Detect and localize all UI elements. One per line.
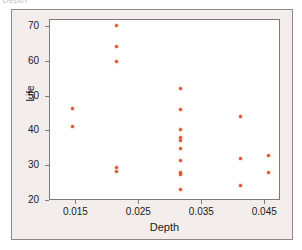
data-point [115, 166, 118, 169]
data-point [179, 139, 182, 142]
data-point [179, 108, 182, 111]
x-tick-label: 0.035 [179, 207, 223, 217]
y-tick-label: 20 [15, 195, 39, 205]
y-tick-label: 30 [15, 160, 39, 170]
x-tick-mark [75, 200, 76, 204]
plot-area [49, 19, 280, 200]
data-point [239, 157, 242, 160]
data-point [71, 107, 74, 110]
y-tick-mark [45, 200, 49, 201]
data-point [239, 115, 242, 118]
x-tick-mark [201, 200, 202, 204]
x-tick-mark [138, 200, 139, 204]
data-point [71, 125, 74, 128]
data-point [179, 188, 182, 191]
data-point [115, 170, 118, 173]
cropped-text-remnant: Depth [2, 0, 27, 4]
data-point [267, 171, 270, 174]
y-tick-label: 50 [15, 91, 39, 101]
y-tick-label: 60 [15, 56, 39, 66]
data-point [179, 87, 182, 90]
data-point [179, 159, 182, 162]
data-point [115, 60, 118, 63]
y-tick-label: 40 [15, 125, 39, 135]
data-point [179, 147, 182, 150]
x-tick-mark [264, 200, 265, 204]
data-point [115, 45, 118, 48]
x-tick-label: 0.025 [116, 207, 160, 217]
figure-panel: Life Depth 203040506070 0.0150.0250.0350… [11, 9, 293, 240]
data-point [179, 128, 182, 131]
data-point [267, 154, 270, 157]
x-axis-label: Depth [49, 221, 280, 233]
data-point [239, 184, 242, 187]
data-point [115, 24, 118, 27]
y-tick-label: 70 [15, 21, 39, 31]
x-tick-label: 0.015 [53, 207, 97, 217]
x-tick-label: 0.045 [242, 207, 286, 217]
data-point [179, 173, 182, 176]
